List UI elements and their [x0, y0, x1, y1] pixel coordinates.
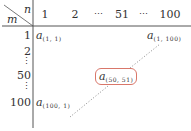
col-header-ellipsis-2: ⋯: [139, 9, 148, 19]
col-header-100: 100: [160, 8, 181, 21]
col-header-2: 2: [72, 8, 79, 21]
cell-a-50-51-highlighted: a(50, 51): [95, 68, 137, 85]
corner-col-var: n: [24, 3, 31, 16]
col-header-ellipsis-1: ⋯: [94, 9, 103, 19]
row-header-vdots-2: ⋮: [22, 81, 31, 91]
row-header-vdots-1: ⋮: [22, 56, 31, 66]
dotted-diagonal-lower: [70, 86, 108, 117]
row-header-100: 100: [10, 96, 31, 109]
dotted-diagonal-upper: [130, 44, 160, 68]
cell-a-1-100: a(1, 100): [147, 29, 181, 42]
corner-row-var: m: [7, 13, 17, 26]
col-header-51: 51: [115, 8, 129, 21]
row-header-1: 1: [24, 29, 31, 42]
col-header-1: 1: [42, 8, 49, 21]
cell-a-100-1: a(100, 1): [36, 96, 70, 109]
cell-a-1-1: a(1, 1): [36, 29, 62, 42]
